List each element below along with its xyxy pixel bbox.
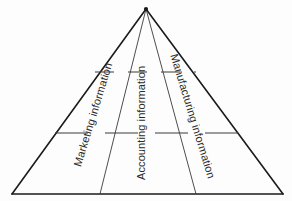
column-divider-left [100,9,146,194]
column-divider-right [146,9,196,194]
pyramid-svg [0,0,292,201]
pyramid-left-edge [12,9,146,194]
apex-point [144,7,148,11]
pyramid-diagram: Marketing information Accounting informa… [0,0,292,201]
pyramid-right-edge [146,9,283,194]
